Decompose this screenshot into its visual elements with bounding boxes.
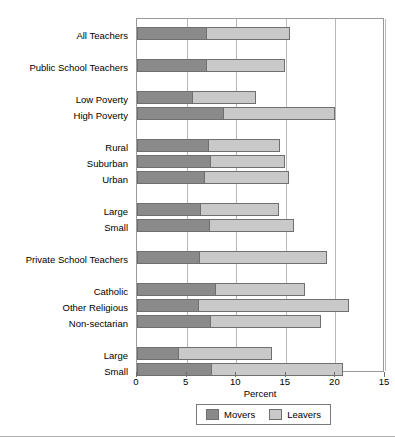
category-label-private-small: Small [104,366,128,377]
x-tick-label: 10 [230,376,241,388]
x-tick-label: 20 [329,376,340,388]
legend-label-leavers: Leavers [287,409,321,420]
category-label-catholic: Catholic [94,286,128,297]
bar-segment-movers [137,203,201,216]
bar-segment-movers [137,347,179,360]
bar-row [137,203,385,216]
bar-segment-leavers [198,299,350,312]
bar-chart: All Teachers Public School Teachers Low … [0,0,395,441]
plot-area [136,18,384,372]
legend-entry-movers: Movers [206,409,255,420]
bar-segment-leavers [192,91,256,104]
legend-entry-leavers: Leavers [269,409,321,420]
category-label-rural: Rural [105,142,128,153]
bar-segment-leavers [206,59,284,72]
bar-segment-movers [137,299,199,312]
category-label-private-large: Large [104,350,128,361]
category-label-suburban: Suburban [87,158,128,169]
bar-segment-leavers [200,203,278,216]
bar-segment-movers [137,27,207,40]
bars-layer [137,19,383,371]
category-label-public-small: Small [104,222,128,233]
bar-segment-movers [137,91,193,104]
bar-segment-movers [137,251,200,264]
bar-segment-leavers [210,315,320,328]
category-label-public-school-teachers: Public School Teachers [29,62,128,73]
bar-segment-leavers [215,283,304,296]
bar-segment-movers [137,219,210,232]
category-label-other-religious: Other Religious [63,302,128,313]
chart-legend: Movers Leavers [196,404,331,425]
x-tick-label: 15 [280,376,291,388]
legend-swatch-movers-icon [206,409,219,420]
x-tick-label: 15 [379,376,390,388]
bar-row [137,299,385,312]
gridline-25 [385,19,386,371]
footer-divider [0,436,395,437]
bar-segment-leavers [223,107,335,120]
bar-row [137,283,385,296]
bar-row [137,139,385,152]
bar-segment-movers [137,315,211,328]
legend-swatch-leavers-icon [269,409,282,420]
bar-row [137,347,385,360]
bar-row [137,27,385,40]
category-label-public-large: Large [104,206,128,217]
bar-row [137,251,385,264]
bar-row [137,171,385,184]
bar-segment-leavers [199,251,327,264]
bar-segment-leavers [208,139,279,152]
bar-row [137,315,385,328]
x-tick-label: 5 [183,376,188,388]
category-label-urban: Urban [102,174,128,185]
bar-row [137,107,385,120]
bar-row [137,91,385,104]
bar-segment-leavers [204,171,288,184]
bar-segment-leavers [178,347,272,360]
bar-segment-leavers [209,219,293,232]
bar-segment-leavers [206,27,289,40]
legend-label-movers: Movers [224,409,255,420]
bar-segment-movers [137,283,216,296]
category-label-private-school-teachers: Private School Teachers [26,254,128,265]
bar-row [137,155,385,168]
bar-segment-leavers [210,155,284,168]
bar-segment-movers [137,155,211,168]
bar-row [137,59,385,72]
bar-segment-movers [137,107,224,120]
category-label-non-sectarian: Non-sectarian [69,318,128,329]
category-label-low-poverty: Low Poverty [76,94,128,105]
x-tick-label: 0 [133,376,138,388]
category-label-column: All Teachers Public School Teachers Low … [0,18,133,372]
category-label-all-teachers: All Teachers [76,30,128,41]
x-axis-title: Percent [136,388,384,400]
category-label-high-poverty: High Poverty [74,110,128,121]
bar-segment-movers [137,171,205,184]
bar-segment-movers [137,139,209,152]
bar-row [137,219,385,232]
bar-segment-movers [137,59,207,72]
